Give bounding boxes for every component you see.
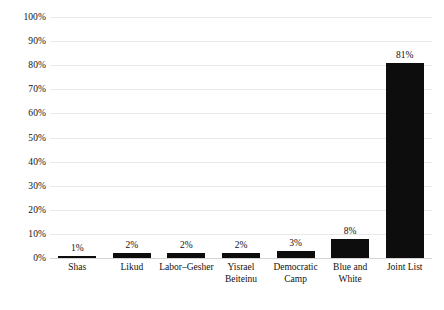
plot-area: 1%2%2%2%3%8%81% xyxy=(50,17,432,258)
gridline-0 xyxy=(50,258,432,259)
y-axis-tick-label: 90% xyxy=(0,36,46,46)
y-axis-tick-label: 40% xyxy=(0,157,46,167)
y-axis-tick-label: 0% xyxy=(0,253,46,263)
bar-group: 2% xyxy=(105,17,160,258)
y-axis-tick-label: 30% xyxy=(0,181,46,191)
bar-value-label: 1% xyxy=(71,243,84,254)
bar[interactable] xyxy=(113,253,151,258)
bar-group: 2% xyxy=(214,17,269,258)
bar-value-label: 8% xyxy=(344,226,357,237)
bar[interactable] xyxy=(167,253,205,258)
y-axis-tick-label: 50% xyxy=(0,133,46,143)
bar-group: 81% xyxy=(377,17,432,258)
y-axis-tick-label: 60% xyxy=(0,108,46,118)
bar-group: 1% xyxy=(50,17,105,258)
y-axis-tick-label: 20% xyxy=(0,205,46,215)
bar[interactable] xyxy=(386,63,424,258)
bar[interactable] xyxy=(58,256,96,258)
bar[interactable] xyxy=(331,239,369,258)
bar-value-label: 2% xyxy=(126,240,139,251)
bar-value-label: 81% xyxy=(396,50,413,61)
y-axis-tick-label: 70% xyxy=(0,84,46,94)
y-axis-tick-label: 100% xyxy=(0,12,46,22)
x-axis-label-line: White xyxy=(317,274,384,286)
bar-chart: 0%10%20%30%40%50%60%70%80%90%100% 1%2%2%… xyxy=(0,0,444,310)
bar-group: 3% xyxy=(268,17,323,258)
bar-value-label: 3% xyxy=(289,238,302,249)
bar-value-label: 2% xyxy=(180,240,193,251)
x-axis-label-line: Joint List xyxy=(371,262,438,274)
bar[interactable] xyxy=(277,251,315,258)
bar[interactable] xyxy=(222,253,260,258)
bar-value-label: 2% xyxy=(235,240,248,251)
x-axis-category-label: Joint List xyxy=(371,262,438,274)
bar-group: 2% xyxy=(159,17,214,258)
y-axis-tick-label: 10% xyxy=(0,229,46,239)
x-axis: ShasLikudLabor–GesherYisraelBeiteinuDemo… xyxy=(50,262,432,308)
bar-group: 8% xyxy=(323,17,378,258)
y-axis: 0%10%20%30%40%50%60%70%80%90%100% xyxy=(0,0,46,310)
y-axis-tick-label: 80% xyxy=(0,60,46,70)
